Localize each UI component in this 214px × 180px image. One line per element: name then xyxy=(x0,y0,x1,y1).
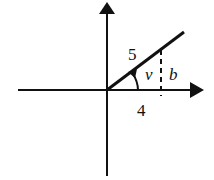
label-opposite: b xyxy=(169,65,178,84)
label-hypotenuse: 5 xyxy=(128,45,137,64)
y-axis-arrow-icon xyxy=(99,2,115,14)
x-axis-arrow-icon xyxy=(190,82,204,98)
label-adjacent: 4 xyxy=(137,101,146,120)
label-angle: v xyxy=(145,65,153,84)
diagram-canvas: 5 v b 4 xyxy=(0,0,214,180)
